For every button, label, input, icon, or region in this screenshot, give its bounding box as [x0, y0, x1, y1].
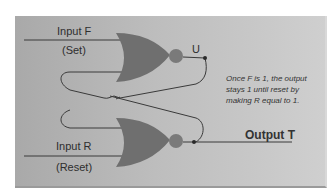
- output-u-wire: [183, 57, 205, 58]
- nor-gate-top: [116, 33, 170, 82]
- nor-gate-bottom: [116, 118, 170, 167]
- output-u-label: U: [192, 43, 200, 55]
- junction-dot-bottom: [192, 140, 196, 144]
- junction-dot-top: [203, 56, 207, 60]
- feedback-wire-top-in: [61, 97, 124, 128]
- reset-label: (Reset): [56, 161, 92, 173]
- output-t-label: Output T: [245, 128, 295, 142]
- input-f-label: Input F: [57, 25, 91, 37]
- latch-note: Once F is 1, the output stays 1 until re…: [226, 73, 326, 106]
- set-label: (Set): [62, 44, 86, 56]
- nor-bubble-bottom: [169, 134, 183, 148]
- nor-bubble-top: [169, 49, 183, 63]
- input-r-label: Input R: [56, 140, 91, 152]
